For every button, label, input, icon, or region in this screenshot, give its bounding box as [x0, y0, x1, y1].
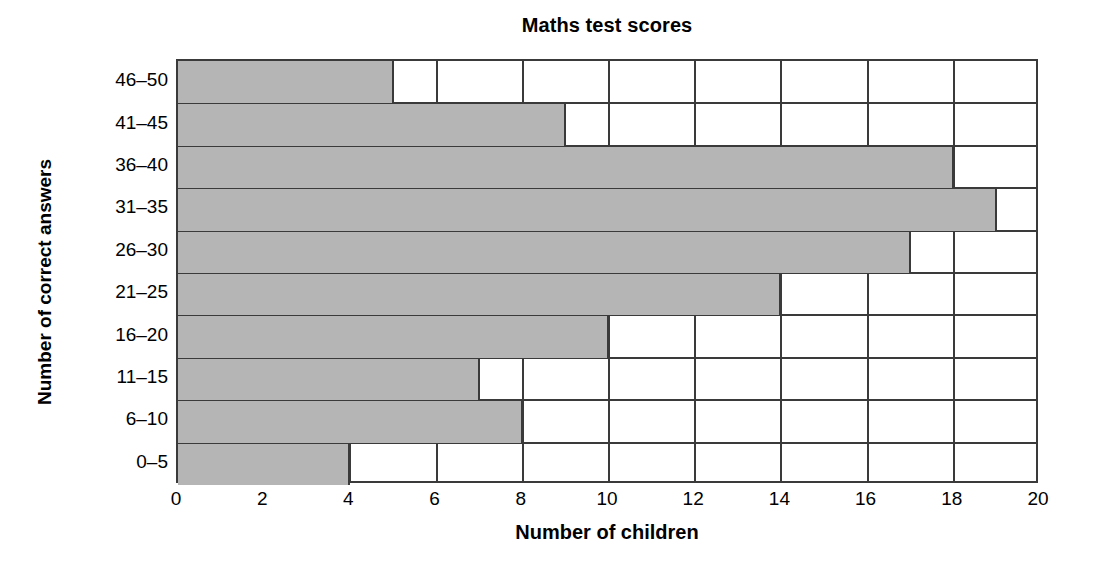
y-axis-tick-labels: 0–56–1011–1516–2021–2526–3031–3536–4041–… — [60, 59, 168, 483]
bar — [178, 103, 566, 145]
x-tick-label-12: 12 — [683, 488, 704, 510]
y-tick-label-21-25: 21–25 — [60, 281, 168, 303]
bar — [178, 443, 350, 485]
x-tick-label-0: 0 — [171, 488, 182, 510]
bars-layer — [178, 61, 1036, 481]
y-tick-label-26-30: 26–30 — [60, 239, 168, 261]
x-tick-label-6: 6 — [429, 488, 440, 510]
bar — [178, 400, 523, 442]
bar-row — [178, 231, 1036, 273]
bar — [178, 315, 609, 357]
bar — [178, 358, 480, 400]
bar — [178, 188, 997, 230]
y-axis-title: Number of correct answers — [34, 70, 56, 494]
x-tick-label-18: 18 — [941, 488, 962, 510]
x-axis-tick-labels: 02468101214161820 — [176, 488, 1038, 516]
bar-row — [178, 146, 1036, 188]
bar-row — [178, 103, 1036, 145]
x-axis-title: Number of children — [176, 521, 1038, 544]
bar-row — [178, 188, 1036, 230]
bar-row — [178, 315, 1036, 357]
y-tick-label-16-20: 16–20 — [60, 324, 168, 346]
x-tick-label-14: 14 — [769, 488, 790, 510]
chart-title: Maths test scores — [176, 14, 1038, 37]
y-tick-label-31-35: 31–35 — [60, 196, 168, 218]
x-tick-label-2: 2 — [257, 488, 268, 510]
y-tick-label-41-45: 41–45 — [60, 112, 168, 134]
y-tick-label-6-10: 6–10 — [60, 408, 168, 430]
bar-row — [178, 443, 1036, 485]
y-tick-label-36-40: 36–40 — [60, 154, 168, 176]
bar — [178, 231, 911, 273]
bar-row — [178, 61, 1036, 103]
maths-test-scores-chart: Maths test scores Number of correct answ… — [0, 0, 1108, 570]
x-tick-label-16: 16 — [855, 488, 876, 510]
x-tick-label-4: 4 — [343, 488, 354, 510]
bar-row — [178, 273, 1036, 315]
bar-row — [178, 358, 1036, 400]
plot-area — [176, 59, 1038, 483]
bar — [178, 61, 394, 103]
bar-row — [178, 400, 1036, 442]
y-tick-label-11-15: 11–15 — [60, 366, 168, 388]
x-tick-label-20: 20 — [1027, 488, 1048, 510]
x-tick-label-8: 8 — [516, 488, 527, 510]
bar — [178, 273, 781, 315]
x-tick-label-10: 10 — [596, 488, 617, 510]
bar — [178, 146, 954, 188]
y-tick-label-0-5: 0–5 — [60, 451, 168, 473]
y-tick-label-46-50: 46–50 — [60, 69, 168, 91]
